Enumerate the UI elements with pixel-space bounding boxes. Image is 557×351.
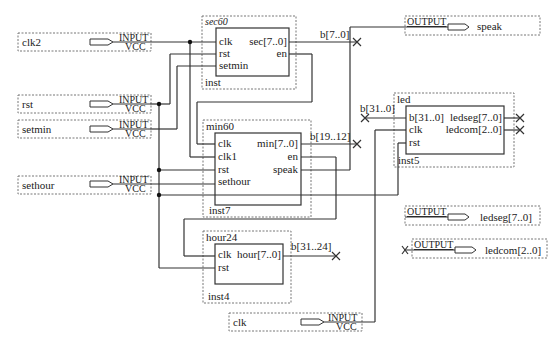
block-inst: inst [205, 76, 221, 88]
bus-label-sec: b[7..0] [320, 28, 349, 40]
input-pin-clk2[interactable]: clk2 INPUT VCC [18, 32, 151, 52]
output-arrow-icon [448, 214, 469, 220]
junction-dot [188, 40, 192, 44]
input-pin-rst[interactable]: rst INPUT VCC [18, 94, 151, 114]
bus-label-led: b[31..0] [360, 102, 395, 114]
input-arrow-icon [90, 39, 113, 45]
input-pin-sethour[interactable]: sethour INPUT VCC [18, 174, 151, 194]
pin-sub: VCC [336, 321, 357, 332]
port-min: min[7..0] [257, 137, 298, 149]
block-title: sec60 [205, 16, 228, 27]
output-arrow-icon [455, 247, 476, 253]
pin-type: OUTPUT [414, 239, 453, 250]
block-hour24[interactable]: hour24 clk rst hour[7..0] inst4 [203, 231, 291, 303]
pin-name: clk [233, 316, 247, 328]
block-title: hour24 [206, 231, 238, 243]
output-pin-ledseg[interactable]: OUTPUT ledseg[7..0] [405, 206, 540, 225]
port-sethour: sethour [218, 175, 251, 187]
pin-sub: VCC [125, 41, 146, 52]
input-arrow-icon [90, 126, 113, 132]
port-clk: clk [409, 123, 423, 135]
input-arrow-icon [301, 319, 324, 325]
port-ledseg: ledseg[7..0] [450, 111, 502, 123]
port-clk: clk [219, 35, 233, 47]
pin-name: speak [477, 20, 503, 32]
pin-name: rst [22, 98, 33, 110]
block-inst: inst5 [398, 154, 420, 166]
input-arrow-icon [90, 101, 113, 107]
pin-name: sethour [22, 179, 55, 191]
port-b: b[31..0] [409, 111, 444, 123]
pin-name: ledcom[2..0] [485, 244, 541, 256]
block-led[interactable]: led b[31..0] clk rst ledseg[7..0] ledcom… [394, 93, 514, 167]
block-min60[interactable]: min60 clk clk1 rst sethour min[7..0] en … [203, 120, 311, 217]
pin-type: OUTPUT [407, 16, 446, 27]
input-pin-clk[interactable]: clk INPUT VCC [229, 312, 375, 332]
port-clk1: clk1 [218, 150, 237, 162]
port-ledcom: ledcom[2..0] [446, 123, 502, 135]
port-clk: clk [218, 248, 232, 260]
pin-sub: VCC [125, 183, 146, 194]
pin-name: setmin [22, 123, 52, 135]
input-pin-setmin[interactable]: setmin INPUT VCC [18, 119, 151, 139]
bus-label-min: b[19..12] [310, 130, 350, 142]
output-pin-speak[interactable]: OUTPUT speak [405, 16, 540, 35]
wires [150, 27, 520, 322]
junction-dot [157, 168, 161, 172]
pin-name: clk2 [22, 36, 41, 48]
block-inst: inst7 [209, 204, 231, 216]
pin-sub: VCC [125, 128, 146, 139]
output-arrow-icon [448, 24, 469, 30]
input-arrow-icon [90, 181, 113, 187]
block-sec60[interactable]: sec60 clk rst setmin sec[7..0] en inst [202, 16, 296, 89]
port-speak: speak [273, 163, 299, 175]
pin-sub: VCC [125, 103, 146, 114]
port-rst: rst [218, 163, 229, 175]
block-title: led [397, 93, 411, 105]
schematic-canvas: clk2 INPUT VCC rst INPUT VCC setmin INPU… [0, 0, 557, 351]
pin-name: ledseg[7..0] [480, 211, 532, 223]
port-clk: clk [218, 137, 232, 149]
port-sec: sec[7..0] [249, 35, 287, 47]
bus-label-hour: b[31..24] [291, 240, 331, 252]
junction-dot [157, 102, 161, 106]
output-pin-ledcom[interactable]: OUTPUT ledcom[2..0] [402, 239, 547, 258]
block-title: min60 [206, 120, 235, 132]
port-en: en [288, 150, 299, 162]
port-setmin: setmin [219, 59, 249, 71]
pin-type: OUTPUT [407, 206, 446, 217]
port-en: en [277, 47, 288, 59]
junction-dot [157, 193, 161, 197]
port-hour: hour[7..0] [237, 248, 281, 260]
port-rst: rst [219, 47, 230, 59]
port-rst: rst [218, 261, 229, 273]
port-rst: rst [409, 136, 420, 148]
block-inst: inst4 [208, 290, 230, 302]
